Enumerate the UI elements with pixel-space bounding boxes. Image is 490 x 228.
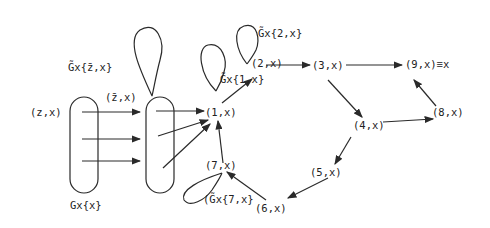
node-2: (2,x)	[251, 58, 283, 69]
loop-gx-zbar	[134, 27, 162, 96]
node-6: (6,x)	[255, 203, 287, 214]
label-gx-7: (G̃x{7,x}	[203, 194, 254, 205]
node-7: (7,x)	[205, 160, 237, 171]
label-gx-zbar: G̃x{z̄,x}	[68, 62, 112, 73]
node-z: (z,x)	[30, 107, 62, 118]
node-1: (1,x)	[205, 107, 237, 118]
node-zbar: (z̄,x)	[105, 92, 137, 103]
node-3: (3,x)	[312, 60, 344, 71]
label-gx-2: G̃x{2,x}	[258, 28, 302, 39]
node-4: (4,x)	[353, 120, 385, 131]
diagram-canvas: (z,x) (z̄,x) (1,x) (2,x) (3,x) (4,x) (5,…	[0, 0, 490, 228]
node-5: (5,x)	[310, 167, 342, 178]
label-gx-x: Gx{x}	[70, 200, 102, 211]
label-gx-1: G̃x{1,x}	[220, 74, 264, 85]
node-9: (9,x)≡x	[405, 59, 449, 70]
node-8: (8,x)	[432, 107, 464, 118]
